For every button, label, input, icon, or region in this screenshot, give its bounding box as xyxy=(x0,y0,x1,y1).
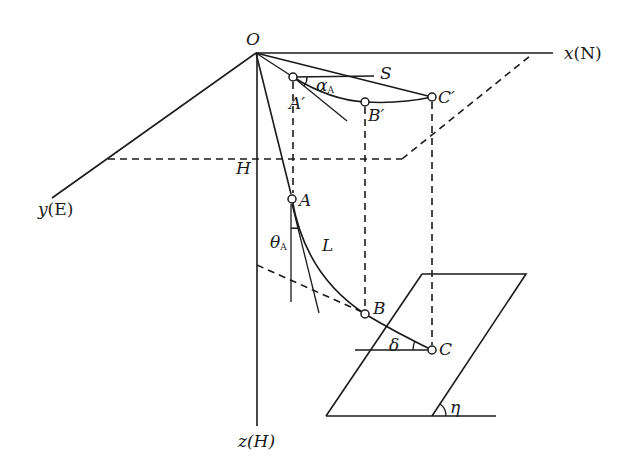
eta-angle-arc xyxy=(440,404,446,416)
delta-label: δ xyxy=(389,337,399,354)
depth-h-label: H xyxy=(236,160,251,177)
segment-o-a xyxy=(256,53,291,194)
alpha-a-label: αA xyxy=(316,77,334,95)
depth-plane-side-edge xyxy=(402,56,530,159)
point-b-label: B xyxy=(373,300,386,317)
wellbore-diagram: O x(N) y(E) z(H) H S αA A′ B′ C′ A B C θ… xyxy=(0,0,637,469)
cprime-label: C′ xyxy=(438,89,455,106)
delta-angle-arc xyxy=(413,341,415,350)
y-axis-label: y(E) xyxy=(38,201,73,218)
x-axis-name: x xyxy=(564,43,574,63)
inclined-plane-top-right xyxy=(422,274,526,416)
x-axis-unit: (N) xyxy=(574,43,602,63)
curve-length-label: L xyxy=(322,237,333,254)
origin-label: O xyxy=(246,31,260,48)
point-cprime-marker xyxy=(428,93,436,101)
x-axis-label: x(N) xyxy=(564,45,602,62)
theta-subscript: A xyxy=(280,242,287,252)
point-aprime-marker xyxy=(289,73,297,81)
theta-a-label: θA xyxy=(270,234,287,252)
point-a-label: A xyxy=(299,192,311,209)
y-axis-line xyxy=(52,53,256,198)
alpha-symbol: α xyxy=(316,75,327,95)
diagram-svg xyxy=(0,0,637,469)
chord-o-cprime xyxy=(256,53,432,97)
a-tangent-line xyxy=(292,204,319,313)
eta-label: η xyxy=(450,399,460,416)
theta-symbol: θ xyxy=(270,232,280,252)
aprime-label: A′ xyxy=(289,95,305,112)
point-c-label: C xyxy=(439,341,452,358)
y-axis-unit: (E) xyxy=(48,199,74,219)
y-axis-name: y xyxy=(38,199,48,219)
trajectory-curve-l xyxy=(292,199,432,350)
alpha-subscript: A xyxy=(327,85,334,95)
bprime-label: B′ xyxy=(368,107,384,124)
z-axis-name: z xyxy=(238,431,247,451)
z-axis-unit: (H) xyxy=(247,431,275,451)
s-label: S xyxy=(380,65,392,82)
point-b-marker xyxy=(361,310,369,318)
point-a-marker xyxy=(288,195,296,203)
z-axis-label: z(H) xyxy=(238,433,275,450)
point-c-marker xyxy=(428,346,436,354)
